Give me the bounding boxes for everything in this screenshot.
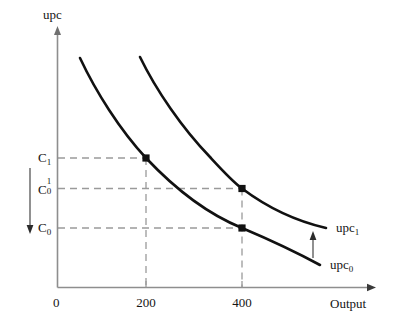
y-tick-label-c1-subscript: 1 <box>47 157 52 167</box>
y-tick-label-c1-base: C <box>38 150 47 165</box>
curve-label-upc1-subscript: 1 <box>355 227 360 237</box>
marker-c-400-c0 <box>238 224 245 231</box>
curve-upc0 <box>80 58 320 265</box>
x-tick-label-200: 200 <box>133 296 159 309</box>
cost-decrease-arrow-head <box>27 225 34 234</box>
x-axis-ticks <box>146 281 242 288</box>
curve-label-upc0-subscript: 0 <box>349 264 354 274</box>
x-axis-arrowhead <box>367 284 376 291</box>
y-axis-arrowhead <box>54 26 61 35</box>
x-tick-label-400: 400 <box>229 296 255 309</box>
axes <box>54 26 376 291</box>
y-tick-label-c0-base: C <box>38 220 47 235</box>
y-tick-label-c1: C1 <box>38 151 51 164</box>
data-markers <box>142 154 245 231</box>
curve-upc1 <box>140 57 326 228</box>
x-axis-title: Output <box>330 297 366 310</box>
curve-label-upc1: upc1 <box>336 221 359 234</box>
marker-a-200-c1 <box>142 154 149 161</box>
y-tick-label-c0-subscript: 0 <box>47 227 52 237</box>
curves <box>80 57 326 265</box>
curve-shift-arrow-head <box>310 231 317 240</box>
y-tick-label-c01-superscript: 1 <box>47 177 52 186</box>
chart-canvas <box>0 0 414 327</box>
chart-figure: upc Output 0 200 400 C1 C10 C0 upc1 upc0 <box>0 0 414 327</box>
y-axis-title: upc <box>43 8 62 21</box>
curve-label-upc1-base: upc <box>336 220 355 235</box>
y-tick-label-c0: C0 <box>38 221 51 234</box>
guide-lines <box>58 158 242 287</box>
x-tick-label-0: 0 <box>53 296 60 309</box>
y-tick-label-c01-scripts: 10 <box>47 181 54 194</box>
y-tick-label-c01-base: C <box>38 182 47 197</box>
y-tick-label-c01: C10 <box>38 181 54 196</box>
y-tick-label-c01-subscript: 0 <box>47 187 52 196</box>
curve-label-upc0-base: upc <box>330 257 349 272</box>
curve-label-upc0: upc0 <box>330 258 353 271</box>
marker-b-400-c01 <box>238 185 245 192</box>
